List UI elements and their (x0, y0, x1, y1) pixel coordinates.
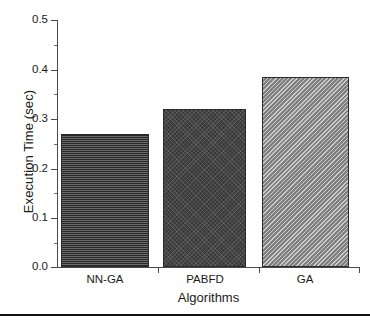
bar-nn-ga (61, 134, 149, 267)
y-minor-tick-0.05 (54, 243, 57, 244)
bottom-separator-rule (0, 314, 370, 316)
y-minor-tick-0.15 (54, 193, 57, 194)
y-tick-0.3 (51, 119, 57, 120)
y-tick-label-0.1: 0.1 (4, 211, 48, 223)
y-tick-label-0.3: 0.3 (4, 112, 48, 124)
bar-pabfd (163, 109, 246, 267)
x-tick-label-ga: GA (245, 273, 365, 285)
y-tick-label-0.4: 0.4 (4, 63, 48, 75)
y-tick-0.2 (51, 169, 57, 170)
bar-chart-figure: Execution Time (sec) 0.5 0.4 0.3 0.2 0.1… (0, 0, 370, 329)
y-tick-label-0.0: 0.0 (4, 260, 48, 272)
y-tick-0.4 (51, 70, 57, 71)
bar-ga (262, 77, 349, 267)
y-tick-label-0.5: 0.5 (4, 13, 48, 25)
y-minor-tick-0.45 (54, 45, 57, 46)
x-axis-line (57, 267, 360, 268)
x-axis-title: Algorithms (57, 290, 360, 305)
y-tick-label-0.2: 0.2 (4, 162, 48, 174)
y-axis-line (57, 20, 58, 268)
y-tick-0.5 (51, 20, 57, 21)
y-tick-0.0 (51, 267, 57, 268)
y-tick-0.1 (51, 218, 57, 219)
y-minor-tick-0.35 (54, 94, 57, 95)
y-minor-tick-0.25 (54, 144, 57, 145)
